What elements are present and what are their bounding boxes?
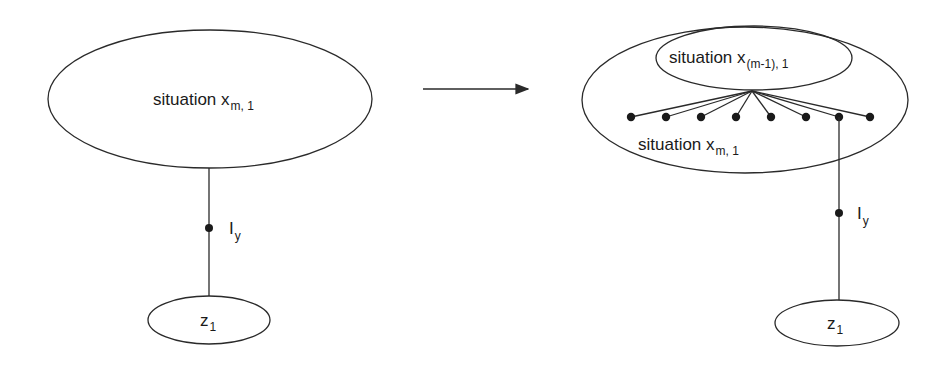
diagram-canvas: situation xm, 1 Iy z1 situation x(m-1), … bbox=[0, 0, 936, 379]
fan-dots bbox=[627, 113, 874, 121]
right-diagram: situation x(m-1), 1 situation xm, 1 Iy bbox=[582, 26, 908, 346]
right-inner-situation-label: situation x(m-1), 1 bbox=[669, 48, 789, 71]
left-target-label: z1 bbox=[200, 311, 217, 334]
right-link-dot bbox=[835, 209, 843, 217]
left-link-label: Iy bbox=[229, 219, 241, 243]
left-diagram: situation xm, 1 Iy z1 bbox=[48, 30, 372, 344]
left-link-dot bbox=[205, 224, 213, 232]
right-outer-situation-label: situation xm, 1 bbox=[638, 135, 739, 158]
right-target-label: z1 bbox=[827, 314, 844, 337]
left-situation-label: situation xm, 1 bbox=[153, 90, 254, 113]
right-link-label: Iy bbox=[857, 204, 869, 228]
